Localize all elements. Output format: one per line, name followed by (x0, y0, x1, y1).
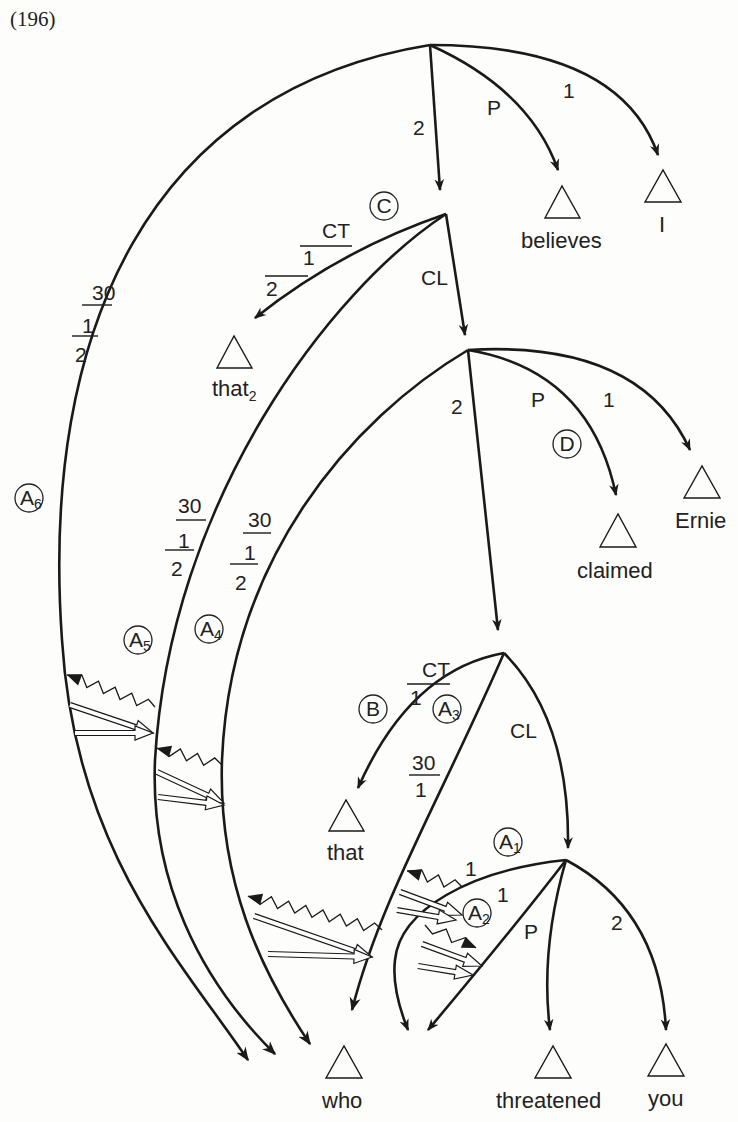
label-n3-2: 2 (451, 395, 463, 418)
label-a3-top: 30 (412, 751, 435, 774)
label-n5-2: 2 (611, 911, 623, 934)
relational-arrows (67, 674, 482, 979)
word-I: I (659, 212, 665, 237)
triangle-I (645, 170, 681, 202)
arc-n1-2 (430, 45, 440, 190)
label-n1-2: 2 (413, 116, 425, 139)
circled-A2-text: A2 (468, 901, 490, 927)
word-that2: that2 (212, 376, 257, 404)
example-number: (196) (10, 7, 56, 31)
circled-A4-text: A4 (200, 617, 222, 643)
label-a3-bot: 1 (415, 778, 427, 801)
label-n5-1b: 1 (497, 883, 509, 906)
label-a5-bot: 2 (171, 557, 183, 580)
label-n4-CT: CT (422, 658, 450, 681)
triangle-who (326, 1046, 362, 1078)
arc-n3-P (468, 350, 616, 495)
circled-B-text: B (366, 697, 380, 720)
word-believes: believes (521, 228, 602, 253)
arc-n2-CT (255, 214, 446, 318)
label-a5-top: 30 (178, 494, 201, 517)
label-n5-P: P (524, 920, 538, 943)
label-n3-P: P (531, 388, 545, 411)
sponsor-arrow-a3-a4 (248, 896, 382, 930)
label-a4-mid: 1 (244, 541, 256, 564)
word-claimed: claimed (577, 558, 653, 583)
arc-n3-1 (468, 349, 690, 450)
circled-C-text: C (376, 194, 391, 217)
label-a4-top: 30 (248, 508, 271, 531)
circled-A1-text: A1 (499, 830, 521, 856)
circled-D-text: D (559, 432, 574, 455)
arc-n5-2 (566, 860, 666, 1030)
label-a6-top: 30 (92, 281, 115, 304)
arc-a4 (222, 350, 468, 1044)
label-n3-1: 1 (603, 388, 615, 411)
label-n4-CL: CL (510, 719, 537, 742)
circled-A3-text: A3 (438, 697, 460, 723)
arc-n5-P (547, 860, 566, 1030)
word-that: that (327, 840, 364, 865)
triangle-believes (545, 186, 580, 218)
word-you: you (648, 1086, 683, 1111)
arc-a5 (155, 214, 446, 1054)
label-a4-bot: 2 (235, 571, 247, 594)
relational-network-diagram: (196) 2 P 1 believes I CT 1 2 CL C that2… (0, 0, 738, 1122)
circled-A5-text: A5 (129, 628, 151, 654)
erase-arrow-a4-a3-2 (268, 949, 372, 963)
label-n4-CT-bot: 1 (410, 686, 422, 709)
arc-n5-1a (394, 860, 566, 1030)
erase-arrow-a6-a5-2 (75, 726, 153, 740)
triangle-that2 (217, 336, 252, 368)
label-n1-P: P (487, 96, 501, 119)
arc-n3-2 (468, 350, 498, 630)
label-a5-mid: 1 (178, 529, 190, 552)
label-n5-1a: 1 (465, 857, 477, 880)
label-n2-CT-bot: 2 (266, 277, 278, 300)
label-n1-1: 1 (563, 79, 575, 102)
label-n2-CL: CL (421, 266, 448, 289)
arc-n4-CL (504, 653, 568, 848)
label-a6-bot: 2 (75, 343, 87, 366)
label-a6-mid: 1 (82, 314, 94, 337)
triangle-Ernie (684, 466, 720, 498)
triangle-that (329, 800, 364, 831)
arc-n2-CL (446, 214, 465, 335)
sponsor-arrow-a5-a6 (67, 675, 155, 707)
diagram-svg: (196) 2 P 1 believes I CT 1 2 CL C that2… (0, 0, 738, 1122)
triangle-you (648, 1044, 684, 1076)
word-Ernie: Ernie (675, 508, 726, 533)
word-threatened: threatened (496, 1088, 601, 1113)
word-who: who (321, 1088, 362, 1113)
label-n2-CT-mid: 1 (303, 246, 315, 269)
circled-A6-text: A6 (20, 486, 42, 512)
sponsor-arrow-a1-a3-head (407, 869, 422, 881)
label-n2-CT: CT (322, 219, 350, 242)
triangle-claimed (600, 514, 636, 547)
triangle-threatened (535, 1046, 571, 1078)
sponsor-arrow-a5-a6-head (67, 674, 82, 685)
